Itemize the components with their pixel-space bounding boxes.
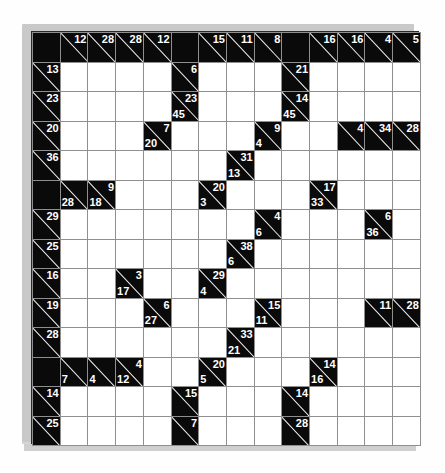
entry-cell[interactable] [143, 151, 171, 181]
entry-cell[interactable] [226, 357, 254, 387]
entry-cell[interactable] [60, 298, 88, 328]
entry-cell[interactable] [199, 121, 227, 151]
entry-cell[interactable] [116, 416, 144, 446]
entry-cell[interactable] [143, 387, 171, 417]
entry-cell[interactable] [254, 92, 282, 122]
entry-cell[interactable] [365, 269, 393, 299]
entry-cell[interactable] [393, 269, 421, 299]
kakuro-table[interactable]: 1228281215118161645136212323451445207209… [32, 32, 421, 446]
entry-cell[interactable] [337, 357, 365, 387]
entry-cell[interactable] [337, 180, 365, 210]
entry-cell[interactable] [282, 239, 310, 269]
entry-cell[interactable] [199, 298, 227, 328]
entry-cell[interactable] [393, 328, 421, 358]
entry-cell[interactable] [393, 62, 421, 92]
entry-cell[interactable] [337, 210, 365, 240]
entry-cell[interactable] [282, 357, 310, 387]
entry-cell[interactable] [171, 121, 199, 151]
entry-cell[interactable] [60, 121, 88, 151]
entry-cell[interactable] [116, 151, 144, 181]
entry-cell[interactable] [226, 416, 254, 446]
kakuro-grid[interactable]: 1228281215118161645136212323451445207209… [31, 31, 419, 444]
entry-cell[interactable] [310, 121, 338, 151]
entry-cell[interactable] [365, 239, 393, 269]
entry-cell[interactable] [310, 151, 338, 181]
entry-cell[interactable] [88, 269, 116, 299]
entry-cell[interactable] [365, 92, 393, 122]
entry-cell[interactable] [393, 180, 421, 210]
entry-cell[interactable] [365, 151, 393, 181]
entry-cell[interactable] [116, 328, 144, 358]
entry-cell[interactable] [88, 92, 116, 122]
entry-cell[interactable] [171, 180, 199, 210]
entry-cell[interactable] [310, 269, 338, 299]
entry-cell[interactable] [393, 92, 421, 122]
entry-cell[interactable] [282, 121, 310, 151]
entry-cell[interactable] [282, 328, 310, 358]
entry-cell[interactable] [88, 328, 116, 358]
entry-cell[interactable] [337, 62, 365, 92]
entry-cell[interactable] [143, 210, 171, 240]
entry-cell[interactable] [226, 180, 254, 210]
entry-cell[interactable] [337, 92, 365, 122]
entry-cell[interactable] [116, 298, 144, 328]
entry-cell[interactable] [88, 151, 116, 181]
entry-cell[interactable] [116, 62, 144, 92]
entry-cell[interactable] [143, 416, 171, 446]
entry-cell[interactable] [116, 239, 144, 269]
entry-cell[interactable] [60, 210, 88, 240]
entry-cell[interactable] [143, 269, 171, 299]
entry-cell[interactable] [254, 328, 282, 358]
entry-cell[interactable] [337, 416, 365, 446]
entry-cell[interactable] [226, 121, 254, 151]
entry-cell[interactable] [282, 298, 310, 328]
entry-cell[interactable] [337, 298, 365, 328]
entry-cell[interactable] [393, 239, 421, 269]
entry-cell[interactable] [254, 269, 282, 299]
entry-cell[interactable] [282, 180, 310, 210]
entry-cell[interactable] [310, 328, 338, 358]
entry-cell[interactable] [226, 387, 254, 417]
entry-cell[interactable] [199, 328, 227, 358]
entry-cell[interactable] [254, 62, 282, 92]
entry-cell[interactable] [60, 151, 88, 181]
entry-cell[interactable] [310, 62, 338, 92]
entry-cell[interactable] [365, 328, 393, 358]
entry-cell[interactable] [310, 387, 338, 417]
entry-cell[interactable] [60, 239, 88, 269]
entry-cell[interactable] [310, 416, 338, 446]
entry-cell[interactable] [116, 121, 144, 151]
entry-cell[interactable] [337, 269, 365, 299]
entry-cell[interactable] [254, 180, 282, 210]
entry-cell[interactable] [88, 239, 116, 269]
entry-cell[interactable] [282, 210, 310, 240]
entry-cell[interactable] [88, 121, 116, 151]
entry-cell[interactable] [171, 210, 199, 240]
entry-cell[interactable] [393, 210, 421, 240]
entry-cell[interactable] [393, 357, 421, 387]
entry-cell[interactable] [60, 92, 88, 122]
entry-cell[interactable] [254, 357, 282, 387]
entry-cell[interactable] [199, 387, 227, 417]
entry-cell[interactable] [199, 416, 227, 446]
entry-cell[interactable] [337, 387, 365, 417]
entry-cell[interactable] [143, 357, 171, 387]
entry-cell[interactable] [88, 298, 116, 328]
entry-cell[interactable] [365, 416, 393, 446]
entry-cell[interactable] [226, 298, 254, 328]
entry-cell[interactable] [60, 416, 88, 446]
entry-cell[interactable] [337, 151, 365, 181]
entry-cell[interactable] [365, 180, 393, 210]
entry-cell[interactable] [254, 151, 282, 181]
entry-cell[interactable] [88, 416, 116, 446]
entry-cell[interactable] [393, 416, 421, 446]
entry-cell[interactable] [282, 269, 310, 299]
entry-cell[interactable] [60, 387, 88, 417]
entry-cell[interactable] [226, 62, 254, 92]
entry-cell[interactable] [171, 298, 199, 328]
entry-cell[interactable] [199, 62, 227, 92]
entry-cell[interactable] [116, 92, 144, 122]
entry-cell[interactable] [88, 210, 116, 240]
entry-cell[interactable] [171, 239, 199, 269]
entry-cell[interactable] [310, 239, 338, 269]
